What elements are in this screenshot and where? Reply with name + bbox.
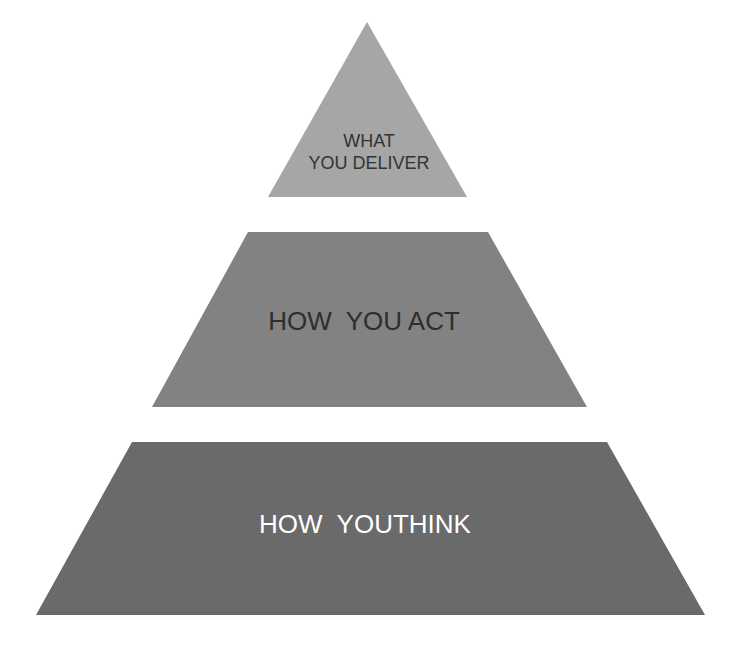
- label-what: WHAT: [343, 131, 395, 151]
- pyramid-diagram: WHAT YOU DELIVER HOW YOU ACT HOW YOUTHIN…: [0, 0, 738, 652]
- label-you-deliver: YOU DELIVER: [308, 153, 429, 173]
- label-how-you-think: HOW YOUTHINK: [259, 509, 472, 539]
- label-how-you-act: HOW YOU ACT: [268, 306, 460, 336]
